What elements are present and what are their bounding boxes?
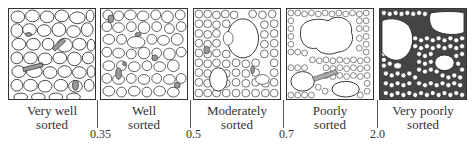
grain-illustration-very-well [9,9,95,99]
label-line1: Very poorly [377,104,469,118]
panel-moderately-sorted [193,8,281,100]
label-well-sorted: Well sorted [98,104,190,132]
label-line2: sorted [284,118,376,132]
panel-very-well-sorted [8,8,96,100]
grain-illustration-moderately [194,9,280,99]
label-line2: sorted [6,118,98,132]
label-line2: sorted [191,118,283,132]
panel-well-sorted [100,8,188,100]
grain-illustration-very-poorly [380,9,466,99]
grain-illustration-well [101,9,187,99]
grain-illustration-poorly [287,9,373,99]
label-line1: Very well [6,104,98,118]
label-line1: Poorly [284,104,376,118]
label-very-poorly-sorted: Very poorly sorted [377,104,469,132]
panel-very-poorly-sorted [379,8,467,100]
label-moderately-sorted: Moderately sorted [191,104,283,132]
label-line1: Well [98,104,190,118]
label-line2: sorted [377,118,469,132]
label-line2: sorted [98,118,190,132]
label-poorly-sorted: Poorly sorted [284,104,376,132]
label-line1: Moderately [191,104,283,118]
panel-poorly-sorted [286,8,374,100]
label-very-well-sorted: Very well sorted [6,104,98,132]
